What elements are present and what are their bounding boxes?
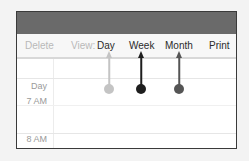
day-callout-arrow [103, 51, 115, 96]
view-label: View: [71, 40, 95, 51]
week-view-button[interactable]: Week [129, 40, 154, 51]
week-callout-arrow [135, 51, 147, 96]
month-view-button[interactable]: Month [165, 40, 193, 51]
print-button[interactable]: Print [209, 40, 230, 51]
slot-gridline [17, 105, 236, 106]
time-slot-7am: 7 AM [17, 96, 47, 106]
day-header-label: Day [17, 81, 47, 91]
month-callout-arrow [173, 51, 185, 96]
time-column-divider [53, 59, 54, 148]
day-view-button[interactable]: Day [97, 40, 115, 51]
title-bar [17, 12, 236, 34]
time-slot-8am: 8 AM [17, 134, 47, 144]
slot-gridline [17, 133, 236, 134]
toolbar: Delete View: Day Week Month Print [17, 34, 236, 59]
delete-button[interactable]: Delete [25, 40, 54, 51]
calendar-window: Delete View: Day Week Month Print Day 7 … [16, 11, 237, 149]
header-gridline [17, 78, 236, 79]
